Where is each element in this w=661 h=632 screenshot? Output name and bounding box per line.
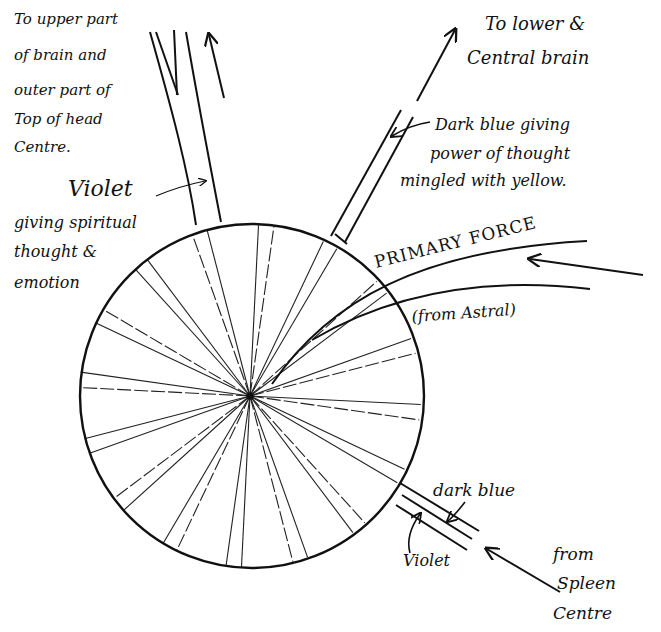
wheel-spoke — [103, 309, 250, 396]
violet-stream — [150, 30, 224, 225]
wheel-spoke — [250, 293, 387, 396]
wheel-spoke — [250, 396, 353, 533]
wheel-spoke — [84, 396, 250, 439]
label-dark-blue-small: dark blue — [433, 480, 515, 500]
spleen-inflow-arrow — [487, 549, 560, 592]
wheel-spoke — [207, 230, 250, 396]
wheel-spoke — [250, 396, 397, 483]
diagram-canvas: To upper part of brain and outer part of… — [0, 0, 661, 632]
wheel-spoke — [250, 396, 421, 405]
wheel-spoke — [135, 269, 250, 396]
wheel-hub — [247, 393, 254, 400]
label-violet-title: Violet — [68, 176, 133, 201]
label-violet-small: Violet — [403, 551, 451, 570]
wheel-spoke — [242, 396, 251, 567]
label-dark-blue-note: Dark blue giving power of thought mingle… — [400, 115, 575, 190]
wheel-spoke — [163, 396, 250, 543]
dark-blue-upward-arrow — [417, 30, 455, 101]
label-upper-right: To lower & Central brain — [467, 13, 591, 68]
dark-blue-note-pointer — [392, 122, 430, 136]
force-centre-diagram: To upper part of brain and outer part of… — [0, 0, 661, 632]
wheel-spoke — [250, 396, 293, 562]
wheel-spoke — [113, 396, 250, 499]
wheel-spoke — [250, 339, 411, 397]
wheel-spoke — [250, 353, 416, 396]
label-primary-force-left: PRIMARY FORCE — [372, 212, 538, 272]
wheel-spoke — [250, 225, 259, 396]
dark-blue-stream — [331, 30, 455, 244]
label-from-astral: (from Astral) — [411, 300, 517, 326]
violet-note-pointer — [156, 181, 205, 196]
label-upper-left: To upper part of brain and outer part of… — [14, 10, 123, 156]
primary-force-arrow — [530, 259, 643, 275]
wheel-spoke — [250, 249, 337, 396]
wheel-spoke — [89, 396, 250, 454]
wheel-spoke — [250, 396, 308, 557]
label-violet-note: giving spiritual thought & emotion — [14, 213, 142, 292]
violet-upward-arrow — [209, 35, 224, 98]
wheel-spoke — [250, 396, 365, 523]
label-from-spleen: from Spleen Centre — [551, 544, 621, 623]
wheel-spoke — [193, 235, 251, 396]
wheel-spoke — [123, 396, 250, 511]
wheel-spoke — [147, 259, 250, 396]
wheel-spoke — [79, 388, 250, 397]
